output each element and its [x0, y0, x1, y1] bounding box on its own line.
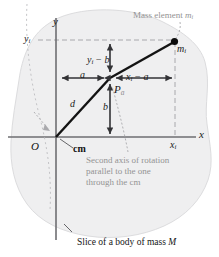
- y-axis-label: y: [53, 16, 58, 27]
- slice-caption: Slice of a body of mass M: [77, 238, 176, 248]
- dimension-a-label: a: [80, 70, 85, 80]
- second-axis-annotation-line2: parallel to the one: [86, 166, 169, 177]
- dimension-b-label: b: [103, 102, 108, 112]
- yi-minus-b-rest: − b: [95, 54, 109, 65]
- origin-label: O: [31, 141, 39, 152]
- dimension-d-label: d: [70, 99, 75, 109]
- slice-caption-prefix: Slice of a body of mass: [77, 237, 168, 247]
- dimension-yi-minus-b-label: yi− b: [87, 55, 110, 66]
- y-i-tick-sub: i: [28, 37, 30, 44]
- mass-element-point-label: mi: [177, 44, 186, 55]
- x-axis-label: x: [199, 129, 204, 140]
- x-i-tick-label: xi: [170, 140, 176, 151]
- second-axis-annotation: Second axis of rotation parallel to the …: [86, 155, 169, 188]
- point-p-base: P: [114, 83, 121, 95]
- xi-minus-a-rest: − a: [134, 71, 148, 82]
- second-axis-annotation-line1: Second axis of rotation: [86, 155, 169, 166]
- xi-minus-a-sub: i: [130, 75, 132, 82]
- parallel-axis-theorem-figure: y x O cm yi xi a b d yi− b xi− a Pa mi M…: [0, 0, 219, 257]
- mass-element-annotation-sub: i: [192, 14, 194, 20]
- mass-element-annotation-prefix: Mass element: [133, 10, 185, 20]
- point-p-label: Pa: [114, 84, 124, 96]
- dimension-xi-minus-a-label: xi− a: [126, 72, 149, 83]
- cm-label: cm: [73, 144, 86, 154]
- x-i-tick-sub: i: [174, 143, 176, 150]
- leader-lines-layer: [0, 0, 219, 257]
- point-p-sub: a: [121, 88, 125, 97]
- y-i-tick-label: yi: [24, 34, 30, 45]
- slice-caption-symbol: M: [168, 237, 176, 247]
- mass-element-point-sub: i: [184, 47, 186, 54]
- mass-element-annotation: Mass element mi: [133, 10, 193, 22]
- yi-minus-b-sub: i: [91, 58, 93, 65]
- second-axis-annotation-line3: through the cm: [86, 177, 169, 188]
